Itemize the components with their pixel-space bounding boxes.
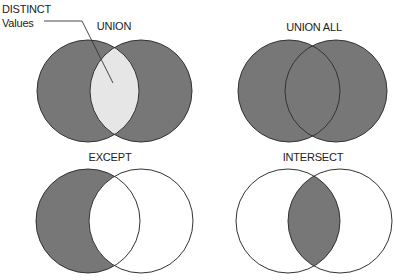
venn-union-all: UNION ALL [238, 21, 387, 142]
venn-union: UNION [37, 20, 192, 142]
except-title: EXCEPT [89, 151, 132, 163]
union-title: UNION [97, 20, 132, 32]
venn-except: EXCEPT [36, 151, 193, 273]
except-right-set [89, 169, 193, 273]
venn-intersect: INTERSECT [236, 151, 392, 273]
union-all-title: UNION ALL [286, 21, 342, 33]
callout-line2: Values [2, 17, 34, 29]
callout-line1: DISTINCT [2, 3, 52, 15]
intersect-title: INTERSECT [283, 151, 344, 163]
set-operations-diagram: UNION DISTINCT Values UNION ALL EXCEPT I… [0, 0, 394, 280]
union-all-right-set [285, 40, 387, 142]
